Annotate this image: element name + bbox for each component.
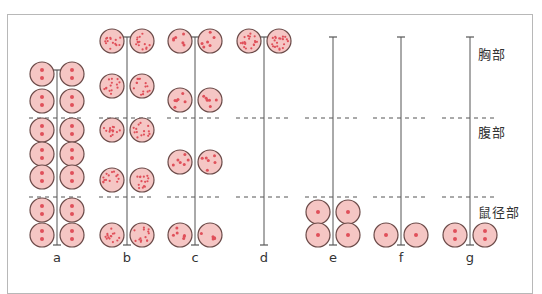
mammary-gland-icon	[30, 165, 54, 189]
mammary-gland-icon	[198, 150, 222, 174]
column-label-b: b	[123, 250, 131, 265]
mammary-gland-icon	[168, 88, 192, 112]
mammary-gland-icon	[443, 223, 467, 247]
column-label-a: a	[53, 250, 61, 265]
region-label-inguinal: 鼠径部	[478, 202, 520, 221]
mammary-gland-icon	[100, 223, 124, 247]
mammary-gland-icon	[100, 29, 124, 53]
mammary-gland-icon	[130, 223, 154, 247]
column-label-g: g	[466, 250, 474, 265]
mammary-gland-icon	[30, 223, 54, 247]
mammary-gland-icon	[30, 142, 54, 166]
mammary-gland-icon	[473, 223, 497, 247]
mammary-gland-icon	[198, 223, 222, 247]
mammary-gland-icon	[30, 198, 54, 222]
mammary-gland-icon	[60, 118, 84, 142]
mammary-gland-icon	[60, 142, 84, 166]
mammary-gland-icon	[60, 198, 84, 222]
mammary-gland-icon	[100, 74, 124, 98]
column-label-c: c	[191, 250, 198, 265]
column-label-d: d	[260, 250, 268, 265]
mammary-gland-icon	[30, 89, 54, 113]
mammary-gland-icon	[130, 118, 154, 142]
mammary-gland-icon	[60, 62, 84, 86]
column-label-f: f	[399, 250, 404, 265]
region-label-abdominal: 腹部	[478, 122, 506, 141]
mammary-gland-icon	[60, 223, 84, 247]
mammary-gland-icon	[168, 29, 192, 53]
mammary-gland-icon	[30, 118, 54, 142]
mammary-gland-icon	[60, 89, 84, 113]
mammary-gland-icon	[30, 62, 54, 86]
region-label-thoracic: 胸部	[478, 44, 506, 63]
mammary-gland-icon	[60, 165, 84, 189]
column-label-e: e	[329, 250, 337, 265]
mammary-gland-icon	[168, 223, 192, 247]
